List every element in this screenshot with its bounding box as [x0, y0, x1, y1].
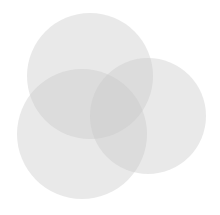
- circle-right: [90, 58, 206, 174]
- venn-diagram: [0, 0, 220, 215]
